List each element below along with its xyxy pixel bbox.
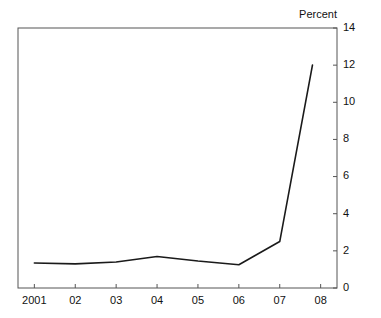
y-tick-label: 8 (343, 132, 349, 144)
plot-frame (18, 28, 337, 288)
x-tick-label: 08 (315, 294, 327, 306)
y-axis-ticks (333, 28, 337, 288)
x-tick-label: 03 (110, 294, 122, 306)
y-tick-label: 2 (343, 244, 349, 256)
y-tick-label: 14 (343, 21, 355, 33)
x-axis-tick-labels: 200102030405060708 (22, 294, 327, 306)
x-tick-label: 05 (192, 294, 204, 306)
plot-border (18, 28, 337, 288)
y-tick-label: 10 (343, 95, 355, 107)
y-tick-label: 4 (343, 207, 349, 219)
x-axis-ticks (34, 284, 320, 288)
x-tick-label: 02 (69, 294, 81, 306)
x-tick-label: 2001 (22, 294, 46, 306)
y-tick-label: 0 (343, 281, 349, 293)
x-tick-label: 07 (274, 294, 286, 306)
x-tick-label: 04 (151, 294, 163, 306)
chart-figure: Percent 02468101214 200102030405060708 (0, 0, 381, 318)
y-tick-label: 12 (343, 58, 355, 70)
data-series-line (34, 65, 312, 265)
line-chart-plot: 02468101214 200102030405060708 (0, 0, 381, 318)
y-tick-label: 6 (343, 169, 349, 181)
x-tick-label: 06 (233, 294, 245, 306)
y-axis-tick-labels: 02468101214 (343, 21, 355, 293)
